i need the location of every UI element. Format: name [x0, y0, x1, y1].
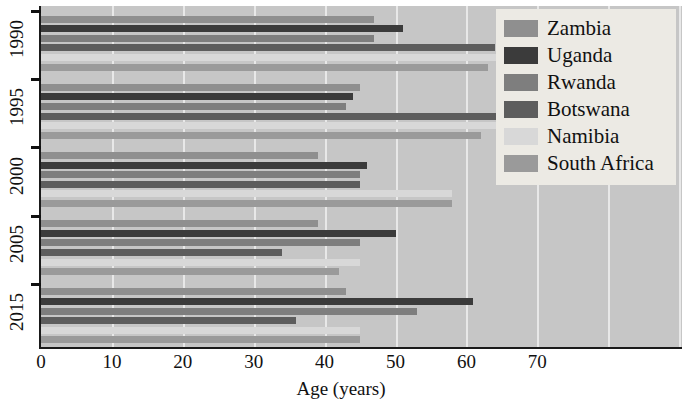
bar-namibia-1990 — [41, 54, 523, 61]
bar-zambia-2000 — [41, 152, 318, 159]
bar-namibia-2015 — [41, 327, 360, 334]
legend-item-rwanda[interactable]: Rwanda — [504, 69, 672, 96]
bar-south-africa-2015 — [41, 336, 360, 343]
x-axis-label-20: 20 — [163, 351, 203, 373]
bar-uganda-2015 — [41, 298, 473, 305]
legend-swatch-icon — [504, 128, 538, 145]
y-axis-label-2005: 2005 — [6, 229, 28, 263]
bar-uganda-1990 — [41, 25, 403, 32]
x-axis-label-30: 30 — [234, 351, 274, 373]
legend-item-uganda[interactable]: Uganda — [504, 42, 672, 69]
bar-namibia-2005 — [41, 259, 360, 266]
bar-namibia-2000 — [41, 190, 452, 197]
bar-group-2005 — [41, 220, 682, 275]
bar-south-africa-2005 — [41, 268, 339, 275]
legend-item-botswana[interactable]: Botswana — [504, 96, 672, 123]
y-tick-1990 — [31, 10, 41, 13]
x-axis-label-10: 10 — [92, 351, 132, 373]
bar-south-africa-1995 — [41, 132, 481, 139]
y-axis-label-1990: 1990 — [6, 24, 28, 58]
bar-south-africa-2000 — [41, 200, 452, 207]
bar-zambia-2005 — [41, 220, 318, 227]
bar-rwanda-1990 — [41, 35, 374, 42]
bar-south-africa-1990 — [41, 64, 488, 71]
legend-swatch-icon — [504, 101, 538, 118]
legend-label: Namibia — [547, 126, 619, 147]
legend-item-zambia[interactable]: Zambia — [504, 15, 672, 42]
legend-item-namibia[interactable]: Namibia — [504, 123, 672, 150]
y-axis-line — [39, 6, 41, 347]
legend-swatch-icon — [504, 155, 538, 172]
x-axis-title: Age (years) — [0, 378, 682, 400]
legend-label: Botswana — [547, 99, 630, 120]
x-axis-label-0: 0 — [21, 351, 61, 373]
legend-label: South Africa — [547, 153, 654, 174]
bar-namibia-1995 — [41, 122, 516, 129]
legend: ZambiaUgandaRwandaBotswanaNamibiaSouth A… — [496, 9, 676, 185]
legend-label: Uganda — [547, 45, 612, 66]
bar-rwanda-1995 — [41, 103, 346, 110]
bar-uganda-2005 — [41, 230, 396, 237]
x-axis-label-60: 60 — [446, 351, 486, 373]
bar-botswana-2015 — [41, 317, 296, 324]
y-tick-2015 — [31, 283, 41, 286]
bar-botswana-2005 — [41, 249, 282, 256]
legend-label: Rwanda — [547, 72, 616, 93]
bar-zambia-1990 — [41, 16, 374, 23]
bar-group-2015 — [41, 288, 682, 343]
legend-item-south-africa[interactable]: South Africa — [504, 150, 672, 177]
bar-botswana-1995 — [41, 113, 502, 120]
bar-rwanda-2015 — [41, 308, 417, 315]
legend-swatch-icon — [504, 74, 538, 91]
bar-rwanda-2000 — [41, 171, 360, 178]
y-axis-label-2000: 2000 — [6, 161, 28, 195]
x-axis-line — [39, 347, 682, 349]
legend-swatch-icon — [504, 20, 538, 37]
bar-botswana-1990 — [41, 44, 495, 51]
bar-uganda-1995 — [41, 93, 353, 100]
legend-label: Zambia — [547, 18, 611, 39]
bar-rwanda-2005 — [41, 239, 360, 246]
x-axis-label-40: 40 — [305, 351, 345, 373]
legend-swatch-icon — [504, 47, 538, 64]
y-tick-2000 — [31, 146, 41, 149]
y-tick-2005 — [31, 215, 41, 218]
bar-zambia-2015 — [41, 288, 346, 295]
y-axis-label-2015: 2015 — [6, 297, 28, 331]
bar-uganda-2000 — [41, 162, 367, 169]
x-axis-label-50: 50 — [376, 351, 416, 373]
chart-root: 19901995200020052015 010203040506070 Age… — [0, 0, 682, 414]
bar-zambia-1995 — [41, 84, 360, 91]
bar-botswana-2000 — [41, 181, 360, 188]
y-tick-1995 — [31, 78, 41, 81]
x-axis-label-70: 70 — [517, 351, 557, 373]
y-axis-label-1995: 1995 — [6, 92, 28, 126]
